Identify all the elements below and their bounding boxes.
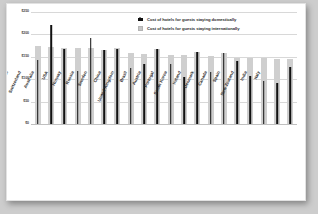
y-tick-label: $250 (9, 10, 29, 14)
grey-square-icon (138, 26, 143, 31)
y-tick-label: $150 (9, 55, 29, 59)
house-icon (138, 17, 143, 22)
legend-item-domestic[interactable]: Cost of hotels for guests staying domest… (138, 15, 303, 23)
bar-domestic[interactable] (263, 81, 265, 124)
bar-domestic[interactable] (290, 67, 292, 124)
chart-card: $0$50$100$150$200$250 JapanSwitzerlandAu… (6, 3, 306, 201)
bar-domestic[interactable] (276, 83, 278, 124)
legend-label-domestic: Cost of hotels for guests staying domest… (147, 17, 236, 22)
bar-domestic[interactable] (50, 25, 52, 124)
y-tick-label: $200 (9, 33, 29, 37)
chart-legend: Cost of hotels for guests staying domest… (138, 15, 303, 33)
y-tick-label: $0 (9, 122, 29, 126)
legend-item-international[interactable]: Cost of hotels for guests staying intern… (138, 24, 303, 32)
legend-label-international: Cost of hotels for guests staying intern… (147, 26, 239, 31)
x-axis: JapanSwitzerlandAustraliaUSANorwayRussia… (31, 125, 297, 195)
